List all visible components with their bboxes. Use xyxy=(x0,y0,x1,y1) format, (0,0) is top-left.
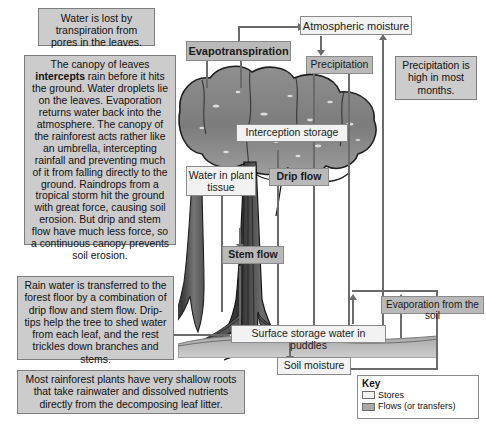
note-transpiration-text: Water is lost by transpiration from pore… xyxy=(51,12,142,48)
arrowhead-up-evap-soil-a xyxy=(349,294,357,300)
store-surface-storage-water-in-puddles[interactable]: Surface storage water in puddles xyxy=(231,325,386,343)
flow-precipitation[interactable]: Precipitation xyxy=(306,56,373,74)
flow-stem-flow[interactable]: Stem flow xyxy=(222,246,284,264)
connector-canopy-to-evapotranspiration-a xyxy=(206,58,208,88)
store-atmospheric-moisture-label: Atmospheric moisture xyxy=(303,20,409,32)
store-interception-storage-label: Interception storage xyxy=(246,126,339,138)
store-soil-moisture-label: Soil moisture xyxy=(284,359,345,371)
note-canopy-bold: intercepts xyxy=(35,71,85,82)
key-row-stores: Stores xyxy=(362,390,474,400)
flow-evapotranspiration-label: Evapotranspiration xyxy=(188,45,288,57)
note-canopy-text-before: The canopy of leaves xyxy=(51,59,150,70)
note-canopy-text-after: rain before it hits the ground. Water dr… xyxy=(31,71,169,261)
connector-soil-loop-top xyxy=(352,290,438,292)
connector-et-to-atmosphere xyxy=(238,26,300,28)
note-canopy-interception: The canopy of leaves intercepts rain bef… xyxy=(24,55,176,245)
store-atmospheric-moisture[interactable]: Atmospheric moisture xyxy=(300,16,412,35)
flow-evaporation-from-the-soil[interactable]: Evaporation from the soil xyxy=(381,296,484,314)
key-swatch-stores-icon xyxy=(362,391,375,399)
note-drip-stem-text: Rain water is transferred to the forest … xyxy=(24,280,166,365)
connector-precipitation-down-b xyxy=(348,70,350,332)
note-precipitation-high: Precipitation is high in most months. xyxy=(395,56,477,100)
key-title: Key xyxy=(362,378,474,389)
key-swatch-flows-icon xyxy=(362,403,375,411)
flow-precipitation-label: Precipitation xyxy=(311,58,369,70)
key-stores-label: Stores xyxy=(378,390,404,400)
diagram-canvas: Atmospheric moisture Interception storag… xyxy=(0,0,486,427)
connector-soil-moisture-right xyxy=(350,368,438,370)
store-water-in-plant-tissue-label: Water in plant tissue xyxy=(189,169,253,193)
store-water-in-plant-tissue[interactable]: Water in plant tissue xyxy=(186,166,256,196)
key-legend: Key Stores Flows (or transfers) xyxy=(357,375,479,419)
flow-drip-flow-label: Drip flow xyxy=(277,170,322,182)
note-transpiration: Water is lost by transpiration from pore… xyxy=(38,8,155,46)
note-precipitation-text: Precipitation is high in most months. xyxy=(402,60,470,96)
connector-left-into-surface-storage xyxy=(168,334,230,336)
note-shallow-roots: Most rainforest plants have very shallow… xyxy=(17,370,245,414)
connector-stem-flow-down xyxy=(239,266,241,332)
connector-et-up xyxy=(238,26,240,42)
store-interception-storage[interactable]: Interception storage xyxy=(236,124,348,142)
note-roots-text: Most rainforest plants have very shallow… xyxy=(26,374,237,410)
flow-stem-flow-label: Stem flow xyxy=(228,248,278,260)
note-drip-and-stem-flow: Rain water is transferred to the forest … xyxy=(17,276,174,360)
store-soil-moisture[interactable]: Soil moisture xyxy=(277,357,351,375)
connector-soil-evaporation-to-atmosphere xyxy=(382,40,384,330)
key-row-flows: Flows (or transfers) xyxy=(362,401,474,411)
connector-precipitation-down-a xyxy=(313,70,315,332)
connector-evap-soil-up-a xyxy=(352,300,354,324)
connector-canopy-to-evapotranspiration-b xyxy=(240,58,242,88)
flow-drip-flow[interactable]: Drip flow xyxy=(269,168,329,186)
key-flows-label: Flows (or transfers) xyxy=(378,401,456,411)
flow-evapotranspiration[interactable]: Evapotranspiration xyxy=(186,41,291,61)
